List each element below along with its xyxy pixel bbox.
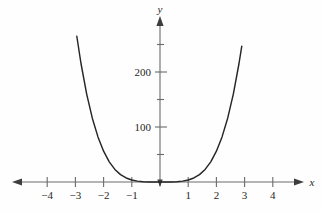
y-axis-origin-marker [157, 180, 162, 188]
x-tick-label-4: 4 [270, 189, 276, 201]
y-axis-label: y [157, 3, 163, 15]
x-axis-right-arrowhead [294, 178, 304, 185]
x-tick-label--3: −3 [70, 189, 82, 201]
x-tick-label--4: −4 [41, 189, 53, 201]
x-axis-label: x [309, 176, 315, 188]
x-tick-label--2: −2 [98, 189, 110, 201]
plot-figure: −4 −3 −2 −1 1 2 3 4 100 200 y x [0, 0, 322, 214]
plot-canvas: −4 −3 −2 −1 1 2 3 4 100 200 y x [0, 0, 322, 214]
x-tick-label-1: 1 [185, 189, 191, 201]
x-axis-left-arrowhead [12, 178, 22, 185]
y-axis-top-arrowhead [156, 16, 163, 26]
quartic-curve [77, 36, 242, 182]
y-tick-label-200: 200 [135, 66, 152, 78]
x-tick-label-3: 3 [242, 189, 248, 201]
y-axis-ticks [155, 45, 167, 155]
y-tick-label-100: 100 [135, 121, 152, 133]
x-tick-label-2: 2 [214, 189, 220, 201]
x-tick-label--1: −1 [126, 189, 138, 201]
